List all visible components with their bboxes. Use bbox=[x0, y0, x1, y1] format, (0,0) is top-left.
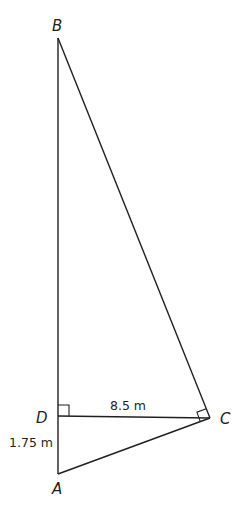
triangle-diagram: B D C A 8.5 m 1.75 m bbox=[0, 0, 246, 513]
measurement-da: 1.75 m bbox=[9, 435, 53, 450]
segment-dc bbox=[58, 416, 210, 418]
segment-bc bbox=[58, 38, 210, 418]
segment-ac bbox=[58, 418, 210, 474]
right-angle-marker-d bbox=[58, 405, 69, 416]
measurement-dc: 8.5 m bbox=[110, 398, 146, 413]
vertex-label-a: A bbox=[51, 480, 62, 498]
vertex-label-c: C bbox=[220, 410, 231, 428]
vertex-label-b: B bbox=[52, 17, 62, 35]
vertex-label-d: D bbox=[36, 409, 48, 427]
